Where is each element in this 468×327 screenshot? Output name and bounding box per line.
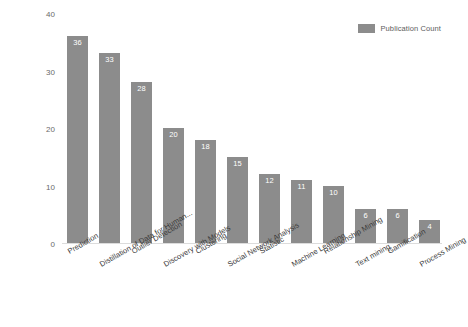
bar-value-label: 15 — [227, 159, 248, 168]
bar-slot: 12 — [254, 14, 286, 243]
y-axis-tick-10: 10 — [46, 182, 55, 191]
bar-group: 363328201815121110664 — [62, 14, 442, 243]
bar-slot: 33 — [94, 14, 126, 243]
x-axis-label: Text mining — [354, 242, 392, 269]
bar-slot: 11 — [286, 14, 318, 243]
bar[interactable]: 11 — [291, 180, 312, 243]
bar-slot: 18 — [190, 14, 222, 243]
bar-slot: 4 — [414, 14, 446, 243]
y-axis-tick-20: 20 — [46, 125, 55, 134]
bar-value-label: 20 — [163, 130, 184, 139]
y-axis: 403020100 — [0, 0, 62, 250]
bar-value-label: 28 — [131, 84, 152, 93]
bar-slot: 28 — [126, 14, 158, 243]
bar-slot: 6 — [382, 14, 414, 243]
bar-value-label: 18 — [195, 142, 216, 151]
x-axis-labels: PredictionDistillation of Data for Human… — [62, 244, 442, 327]
bar-slot: 10 — [318, 14, 350, 243]
bar-value-label: 11 — [291, 182, 312, 191]
bar[interactable]: 28 — [131, 82, 152, 243]
bar-value-label: 12 — [259, 176, 280, 185]
y-axis-tick-30: 30 — [46, 67, 55, 76]
bar-slot: 20 — [158, 14, 190, 243]
bar-value-label: 10 — [323, 188, 344, 197]
bar[interactable]: 33 — [99, 53, 120, 243]
bar-value-label: 33 — [99, 55, 120, 64]
bar-value-label: 6 — [387, 211, 408, 220]
bar[interactable]: 18 — [195, 140, 216, 244]
y-axis-tick-0: 0 — [51, 240, 55, 249]
plot-area: 363328201815121110664 — [62, 14, 442, 244]
bar-slot: 6 — [350, 14, 382, 243]
bar-slot: 15 — [222, 14, 254, 243]
bar-value-label: 36 — [67, 38, 88, 47]
y-axis-tick-40: 40 — [46, 10, 55, 19]
bar-slot: 36 — [62, 14, 94, 243]
bar[interactable]: 36 — [67, 36, 88, 243]
